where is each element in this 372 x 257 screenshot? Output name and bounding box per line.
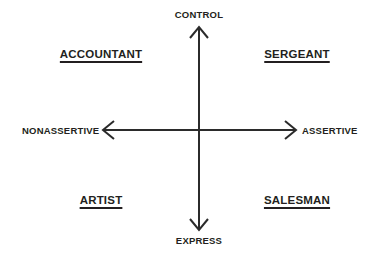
quadrant-label-accountant: ACCOUNTANT [60, 49, 142, 61]
axis-label-assertive: ASSERTIVE [302, 126, 358, 136]
axis-label-express: EXPRESS [176, 236, 222, 246]
quadrant-label-sergeant: SERGEANT [264, 49, 330, 61]
quadrant-diagram: CONTROL EXPRESS NONASSERTIVE ASSERTIVE A… [0, 0, 372, 257]
axis-label-nonassertive: NONASSERTIVE [22, 126, 99, 136]
quadrant-label-salesman: SALESMAN [264, 195, 330, 207]
quadrant-label-artist: ARTIST [80, 195, 123, 207]
axis-label-control: CONTROL [175, 10, 223, 20]
